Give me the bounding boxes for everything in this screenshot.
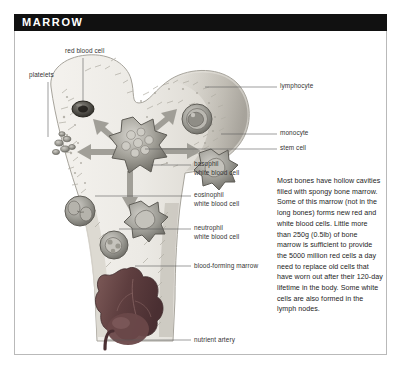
label-nutrient-artery: nutrient artery bbox=[194, 336, 235, 344]
description-paragraph: Most bones have hollow cavities filled w… bbox=[277, 176, 383, 315]
label-lymphocyte: lymphocyte bbox=[280, 82, 313, 90]
page-title: MARROW bbox=[22, 16, 84, 28]
label-red-blood-cell: red blood cell bbox=[65, 47, 104, 55]
label-eosinophil: eosinophil bbox=[194, 191, 224, 199]
cell-eosinophil bbox=[65, 196, 95, 226]
cell-neutrophil bbox=[100, 231, 128, 259]
label-neutrophil: neutrophil bbox=[194, 224, 223, 232]
label-platelets: platelets bbox=[29, 71, 54, 79]
label-stem-cell: stem cell bbox=[280, 144, 306, 152]
label-neutrophil-line2: white blood cell bbox=[194, 233, 239, 241]
illustration-stage: platelets red blood cell lymphocyte mono… bbox=[15, 31, 386, 354]
label-monocyte: monocyte bbox=[280, 129, 309, 137]
label-basophil-line2: white blood cell bbox=[194, 169, 239, 177]
label-eosinophil-line2: white blood cell bbox=[194, 200, 239, 208]
cell-lymphocyte bbox=[182, 104, 212, 134]
panel-title-bar: MARROW bbox=[14, 14, 387, 31]
label-blood-forming-marrow: blood-forming marrow bbox=[194, 262, 258, 270]
label-basophil: basophil bbox=[194, 160, 219, 168]
cell-red-blood-cell bbox=[72, 101, 94, 117]
